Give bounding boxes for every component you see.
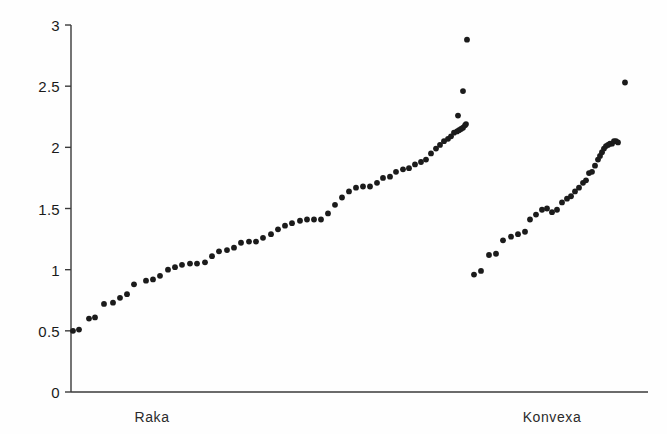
- data-point: [289, 220, 295, 226]
- data-series-konvexa: [471, 80, 628, 278]
- data-point: [387, 174, 393, 180]
- data-point: [165, 267, 171, 273]
- data-point: [311, 217, 317, 223]
- data-point: [478, 268, 484, 274]
- data-point: [110, 300, 116, 306]
- data-point: [246, 239, 252, 245]
- y-axis-tick-label: 0.5: [38, 322, 60, 339]
- y-axis-tick-label: 1.5: [38, 200, 60, 217]
- plot-canvas: [0, 0, 667, 434]
- data-point: [493, 251, 499, 257]
- data-point: [463, 121, 469, 127]
- data-point: [568, 193, 574, 199]
- data-point: [583, 177, 589, 183]
- data-point: [360, 184, 366, 190]
- data-point: [124, 291, 130, 297]
- data-point: [275, 226, 281, 232]
- data-point: [622, 80, 628, 86]
- data-point: [101, 301, 107, 307]
- data-point: [202, 259, 208, 265]
- data-point: [194, 261, 200, 267]
- data-point: [157, 273, 163, 279]
- data-point: [400, 166, 406, 172]
- y-axis-tick-label: 1: [51, 261, 60, 278]
- data-point: [428, 151, 434, 157]
- x-axis-group-label-raka: Raka: [134, 409, 169, 425]
- data-point: [172, 264, 178, 270]
- data-point: [150, 277, 156, 283]
- data-point: [393, 169, 399, 175]
- data-point: [70, 328, 76, 334]
- data-point: [92, 314, 98, 320]
- scatter-plot-figure: 00.511.522.53 RakaKonvexa: [0, 0, 667, 434]
- data-point: [406, 165, 412, 171]
- data-point: [325, 210, 331, 216]
- data-point: [268, 231, 274, 237]
- data-point: [253, 239, 259, 245]
- data-point: [455, 113, 461, 119]
- data-point: [117, 295, 123, 301]
- y-axis-tick-label: 0: [51, 384, 60, 401]
- y-axis-tick-label: 2: [51, 139, 60, 156]
- data-point: [260, 235, 266, 241]
- data-point: [515, 231, 521, 237]
- data-point: [304, 217, 310, 223]
- data-point: [131, 281, 137, 287]
- data-point: [576, 185, 582, 191]
- data-point: [544, 206, 550, 212]
- data-point: [224, 247, 230, 253]
- data-point: [216, 248, 222, 254]
- data-point: [554, 207, 560, 213]
- y-axis-tick-label: 3: [51, 17, 60, 34]
- data-point: [471, 272, 477, 278]
- data-point: [592, 163, 598, 169]
- y-axis-tick-label: 2.5: [38, 78, 60, 95]
- data-point: [179, 262, 185, 268]
- data-point: [187, 261, 193, 267]
- data-point: [500, 237, 506, 243]
- data-point: [539, 207, 545, 213]
- data-point: [374, 180, 380, 186]
- data-point: [282, 223, 288, 229]
- data-point: [231, 245, 237, 251]
- data-series-raka: [70, 37, 470, 334]
- data-point: [464, 37, 470, 43]
- data-point: [412, 162, 418, 168]
- data-point: [380, 175, 386, 181]
- data-point: [615, 140, 621, 146]
- data-point: [318, 217, 324, 223]
- data-point: [508, 234, 514, 240]
- x-axis-group-label-konvexa: Konvexa: [523, 409, 582, 425]
- data-point: [86, 316, 92, 322]
- data-point: [486, 252, 492, 258]
- data-point: [238, 240, 244, 246]
- data-point: [353, 185, 359, 191]
- data-point: [460, 88, 466, 94]
- data-point: [589, 169, 595, 175]
- data-point: [559, 199, 565, 205]
- data-point: [339, 195, 345, 201]
- axes-group: [65, 25, 648, 392]
- data-point: [143, 278, 149, 284]
- data-point: [76, 327, 82, 333]
- data-point: [533, 212, 539, 218]
- data-point: [522, 229, 528, 235]
- data-point: [332, 202, 338, 208]
- y-axis-ticks: [65, 25, 71, 392]
- data-point: [209, 253, 215, 259]
- data-point: [297, 218, 303, 224]
- data-point: [527, 217, 533, 223]
- data-point: [346, 188, 352, 194]
- data-point: [423, 157, 429, 163]
- data-point: [367, 184, 373, 190]
- data-point: [549, 209, 555, 215]
- data-point: [418, 159, 424, 165]
